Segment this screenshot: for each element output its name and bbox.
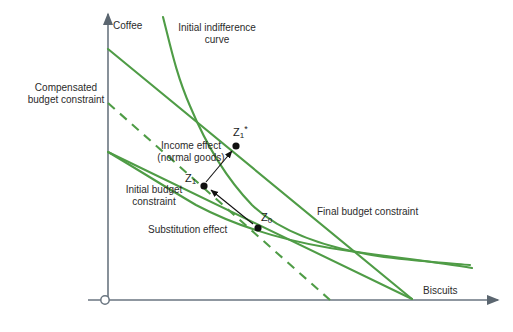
point-label-z1-star: Z1* — [233, 126, 248, 138]
income-effect-label: Income effect (normal goods) — [138, 140, 244, 164]
diagram-canvas — [0, 0, 513, 332]
z0-text: Z — [261, 211, 268, 223]
z1star-text: Z — [233, 126, 240, 138]
compensated-budget-constraint-label: Compensated budget constraint — [25, 82, 107, 106]
z1-subscript: 1 — [192, 177, 196, 186]
initial-budget-constraint-label: Initial budget constraint — [108, 184, 200, 208]
substitution-effect-label: Substitution effect — [148, 224, 227, 236]
point-label-z1: Z1 — [185, 172, 196, 184]
initial-indifference-curve-label: Initial indifference curve — [152, 22, 282, 46]
point-label-z0: Z0 — [261, 211, 272, 223]
final-budget-constraint-label: Final budget constraint — [317, 206, 418, 218]
point-z1 — [200, 182, 207, 189]
economics-diagram: Coffee Biscuits Initial indifference cur… — [0, 0, 513, 332]
y-axis-label: Coffee — [113, 20, 142, 32]
substitution-effect-arrow — [211, 190, 253, 224]
z1-text: Z — [185, 172, 192, 184]
point-z0 — [254, 224, 261, 231]
origin-circle-icon — [101, 296, 109, 304]
z0-subscript: 0 — [268, 216, 272, 225]
budget-constraints-group — [108, 49, 412, 300]
x-axis-label: Biscuits — [423, 285, 457, 297]
z1star-superscript: * — [244, 124, 248, 134]
